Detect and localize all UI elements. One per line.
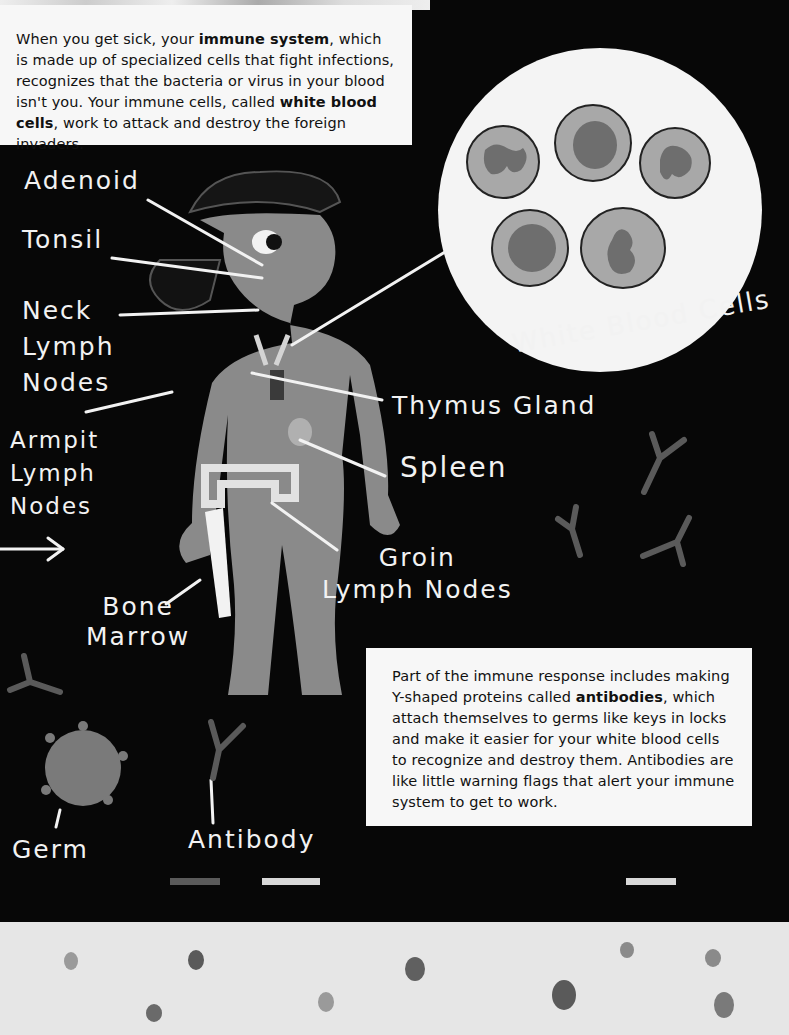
label-thymus-gland: Thymus Gland xyxy=(392,392,596,420)
decorative-bar xyxy=(170,878,220,885)
decorative-dot xyxy=(64,952,78,970)
decorative-dot xyxy=(188,950,204,970)
decorative-dot xyxy=(146,1004,162,1022)
decorative-dot xyxy=(620,942,634,958)
decorative-dot xyxy=(318,992,334,1012)
decorative-dot xyxy=(552,980,576,1010)
label-bone-marrow: Bone Marrow xyxy=(86,592,190,652)
decorative-dot xyxy=(705,949,721,967)
intro-text-box: When you get sick, your immune system, w… xyxy=(0,5,412,145)
antibody-text-box: Part of the immune response includes mak… xyxy=(366,648,752,826)
label-groin-lymph-nodes: Groin Lymph Nodes xyxy=(322,542,513,606)
label-spleen: Spleen xyxy=(400,454,508,482)
bottom-paper-strip xyxy=(0,922,789,1035)
germ-illustration xyxy=(41,721,128,806)
label-tonsil: Tonsil xyxy=(22,226,103,254)
antibody-text: , which attach themselves to germs like … xyxy=(392,689,734,810)
immune-system-term: immune system xyxy=(199,31,330,47)
decorative-bar xyxy=(262,878,320,885)
label-neck-lymph-nodes: Neck Lymph Nodes xyxy=(22,293,115,401)
decorative-dot xyxy=(405,957,425,981)
label-adenoid: Adenoid xyxy=(24,167,140,195)
intro-text: When you get sick, your xyxy=(16,31,199,47)
label-germ: Germ xyxy=(12,836,89,864)
antibodies-term: antibodies xyxy=(576,689,663,705)
label-armpit-lymph-nodes: Armpit Lymph Nodes xyxy=(10,424,99,523)
decorative-bar xyxy=(626,878,676,885)
label-antibody: Antibody xyxy=(188,826,316,854)
decorative-dot xyxy=(714,992,734,1018)
